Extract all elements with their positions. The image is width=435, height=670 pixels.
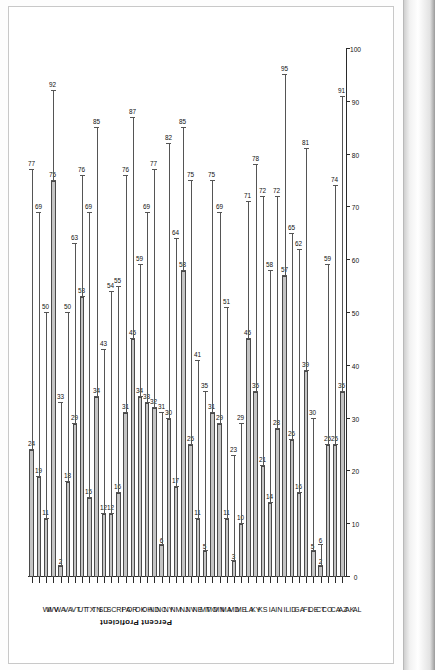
gap-cap-IA — [253, 164, 258, 165]
gap-value-SC: 85 — [93, 118, 100, 125]
bar-OH — [131, 339, 135, 577]
gap-cap-SD — [87, 212, 92, 213]
value-tick-label: 40 — [343, 362, 369, 369]
gap-cap-WA — [44, 518, 49, 519]
gap-line-KS — [248, 202, 249, 339]
gap-value-TN: 76 — [78, 166, 85, 173]
gap-cap-KY — [239, 523, 244, 524]
gap-value-AK: 74 — [331, 176, 338, 183]
gap-cap-NM — [159, 412, 164, 413]
gap-value-WA: 50 — [42, 303, 49, 310]
gap-cap-ME — [224, 518, 229, 519]
gap-cap-DE — [297, 492, 302, 493]
value-tick-label: 90 — [343, 98, 369, 105]
bar-IN — [261, 466, 265, 577]
gap-cap-IA — [253, 391, 258, 392]
gap-value-CA: 6 — [318, 537, 322, 544]
gap-value-CO: 30 — [309, 409, 316, 416]
category-tick-NV — [176, 577, 177, 583]
gap-cap-OH — [130, 338, 135, 339]
value-tick-label: 30 — [343, 415, 369, 422]
category-tick-KY — [241, 577, 242, 583]
category-tick-RI — [104, 577, 105, 583]
gap-line-IA — [256, 165, 257, 392]
gap-cap-AZ — [325, 264, 330, 265]
gap-cap-MO — [195, 518, 200, 519]
gap-line-CO — [313, 419, 314, 551]
bar-MN — [203, 551, 207, 577]
gap-cap-PA — [109, 513, 114, 514]
category-tick-ME — [227, 577, 228, 583]
gap-value-DE: 62 — [295, 240, 302, 247]
gap-line-TN — [82, 176, 83, 297]
category-tick-CT — [306, 577, 307, 583]
gap-value-SD: 69 — [85, 203, 92, 210]
category-tick-KS — [248, 577, 249, 583]
gap-line-PA — [111, 292, 112, 514]
gap-line-OH — [133, 118, 134, 340]
gap-value-NE: 85 — [179, 118, 186, 125]
gap-line-AK — [335, 186, 336, 445]
category-tick-MA — [212, 577, 213, 583]
bar-CA — [318, 566, 322, 577]
gap-value-IN: 72 — [259, 187, 266, 194]
value-tick-label: 80 — [343, 151, 369, 158]
gap-cap-TX — [72, 423, 77, 424]
gap-cap-IL — [268, 502, 273, 503]
gap-cap-KS — [246, 338, 251, 339]
gap-cap-MT — [188, 180, 193, 181]
gap-cap-CO — [311, 418, 316, 419]
bar-TX — [73, 424, 77, 577]
bar-WI — [29, 450, 33, 577]
gap-cap-CO — [311, 550, 316, 551]
gap-line-NJ — [169, 144, 170, 419]
bar-PA — [109, 514, 113, 577]
bar-WA — [44, 519, 48, 577]
bar-CO — [311, 551, 315, 577]
gap-cap-WI — [29, 449, 34, 450]
gap-cap-UT — [65, 312, 70, 313]
gap-cap-WV — [36, 212, 41, 213]
rotated-figure-wrapper: Shaded bar = Students with disabilities … — [0, 0, 404, 670]
gap-cap-WV — [36, 476, 41, 477]
gap-value-NM: 31 — [158, 403, 165, 410]
gap-value-ME: 51 — [223, 298, 230, 305]
gap-cap-AL — [340, 96, 345, 97]
bar-NC — [145, 403, 149, 577]
gap-cap-ID — [275, 428, 280, 429]
gap-cap-FL — [289, 439, 294, 440]
bar-KS — [246, 339, 250, 577]
gap-line-DE — [299, 250, 300, 493]
bar-IL — [268, 503, 272, 577]
gap-value-NY: 77 — [150, 160, 157, 167]
gap-value-CT: 81 — [302, 139, 309, 146]
category-tick-ND — [140, 577, 141, 583]
bar-WV — [37, 477, 41, 577]
gap-value-IL: 58 — [266, 261, 273, 268]
gap-line-ID — [277, 197, 278, 429]
bar-MA — [210, 413, 214, 577]
gap-line-GA — [285, 75, 286, 276]
gap-cap-WI — [29, 169, 34, 170]
gap-line-NV — [176, 239, 177, 487]
gap-cap-KS — [246, 201, 251, 202]
gap-cap-VA — [51, 180, 56, 181]
bar-ND — [138, 397, 142, 577]
gap-value-OH: 87 — [129, 108, 136, 115]
gap-cap-ND — [138, 396, 143, 397]
gap-cap-RI — [101, 513, 106, 514]
gap-cap-OH — [130, 117, 135, 118]
bar-MT — [188, 445, 192, 577]
gap-value-VA: 92 — [49, 81, 56, 88]
document-page: Shaded bar = Students with disabilities … — [0, 0, 404, 670]
category-tick-OR — [118, 577, 119, 583]
category-tick-IA — [256, 577, 257, 583]
gap-cap-VT — [58, 402, 63, 403]
gap-line-UT — [68, 313, 69, 482]
gap-value-PA: 54 — [107, 282, 114, 289]
gap-value-MD: 69 — [215, 203, 222, 210]
gap-line-WA — [46, 313, 47, 519]
gap-cap-NJ — [166, 418, 171, 419]
bar-OR — [116, 493, 120, 577]
bar-NE — [181, 271, 185, 577]
